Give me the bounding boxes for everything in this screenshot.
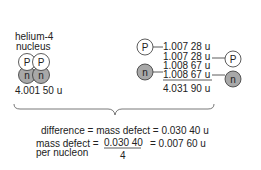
- neutron-label: n: [38, 70, 44, 81]
- svg-text:P: P: [142, 42, 149, 53]
- proton-label: P: [38, 57, 45, 68]
- fraction-denominator: 4: [120, 151, 126, 161]
- per-nucleon-label-line2: per nucleon: [36, 148, 88, 158]
- neutron-mass-2: 1.008 67 u: [163, 70, 210, 80]
- nucleus-mass: 4.001 50 u: [15, 86, 62, 96]
- helium-nucleus: P P n n: [19, 54, 50, 84]
- svg-text:n: n: [230, 74, 236, 85]
- difference-equation: difference = mass defect = 0.030 40 u: [41, 126, 209, 136]
- nucleus-title-line2: nucleus: [16, 42, 50, 52]
- svg-text:n: n: [142, 67, 148, 78]
- brace-icon: [14, 104, 214, 115]
- neutron-label: n: [24, 70, 30, 81]
- proton-label: P: [24, 57, 31, 68]
- total-mass: 4.031 90 u: [163, 84, 210, 94]
- fraction-numerator: 0.030 40: [104, 138, 143, 148]
- svg-text:P: P: [230, 54, 237, 65]
- per-nucleon-result: = 0.007 60 u: [150, 139, 206, 149]
